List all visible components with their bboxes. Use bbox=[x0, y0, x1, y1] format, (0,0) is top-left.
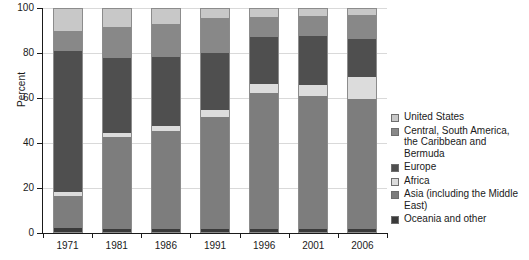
x-axis-tick-label: 1981 bbox=[92, 240, 142, 251]
x-axis-tick-mark bbox=[92, 233, 93, 238]
bar-2001 bbox=[298, 8, 328, 233]
y-axis-tick: 100 bbox=[0, 8, 42, 9]
y-axis-tick: 40 bbox=[0, 143, 42, 144]
bar-segment bbox=[250, 9, 278, 17]
bar-segment bbox=[103, 9, 131, 27]
legend-item: Oceania and other bbox=[391, 213, 529, 225]
bar-1971 bbox=[53, 8, 83, 233]
x-axis-line bbox=[42, 233, 387, 234]
x-axis-tick-mark bbox=[141, 233, 142, 238]
x-axis-tick-mark bbox=[289, 233, 290, 238]
y-axis-tick: 0 bbox=[0, 233, 42, 234]
legend-swatch-icon bbox=[391, 216, 399, 224]
bar-segment bbox=[250, 17, 278, 37]
bar-segment bbox=[152, 57, 180, 126]
x-axis-tick-mark bbox=[190, 233, 191, 238]
legend-item: Africa bbox=[391, 175, 529, 187]
y-axis-tick-label: 80 bbox=[8, 48, 34, 58]
bar-segment bbox=[348, 99, 376, 228]
bar-segment bbox=[299, 9, 327, 16]
bar-1981 bbox=[102, 8, 132, 233]
bar-segment bbox=[201, 53, 229, 111]
y-axis-tick: 20 bbox=[0, 188, 42, 189]
y-axis-tick-label: 0 bbox=[8, 228, 34, 238]
x-axis-tick-mark bbox=[43, 233, 44, 238]
bar-segment bbox=[152, 24, 180, 57]
y-axis-tick-label: 40 bbox=[8, 138, 34, 148]
bar-segment bbox=[299, 229, 327, 232]
x-axis-tick-label: 1986 bbox=[141, 240, 191, 251]
stacked-bar-chart: Percent 020406080100 1971198119861991199… bbox=[0, 0, 529, 260]
legend-swatch-icon bbox=[391, 191, 399, 199]
legend-item: Central, South America, the Caribbean an… bbox=[391, 125, 529, 160]
legend-item-label: Europe bbox=[404, 161, 436, 173]
y-axis-title: Percent bbox=[16, 45, 27, 135]
y-axis-tick: 60 bbox=[0, 98, 42, 99]
bar-segment bbox=[348, 77, 376, 99]
x-axis-tick-label: 2001 bbox=[288, 240, 338, 251]
legend-item-label: Oceania and other bbox=[404, 213, 486, 225]
legend-swatch-icon bbox=[391, 128, 399, 136]
bar-segment bbox=[299, 96, 327, 229]
y-axis-tick-label: 60 bbox=[8, 93, 34, 103]
bar-segment bbox=[152, 229, 180, 232]
bar-segment bbox=[54, 196, 82, 227]
legend-item: Asia (including the Middle East) bbox=[391, 188, 529, 211]
bar-segment bbox=[201, 18, 229, 53]
legend-swatch-icon bbox=[391, 114, 399, 122]
bar-segment bbox=[54, 51, 82, 191]
x-axis-tick-mark bbox=[240, 233, 241, 238]
legend-swatch-icon bbox=[391, 178, 399, 186]
bar-segment bbox=[103, 229, 131, 232]
bar-segment bbox=[201, 117, 229, 229]
bar-segment bbox=[348, 39, 376, 77]
bar-segment bbox=[54, 31, 82, 51]
legend-item: United States bbox=[391, 111, 529, 123]
bar-segment bbox=[152, 9, 180, 23]
bar-segment bbox=[348, 15, 376, 40]
bar-segment bbox=[103, 27, 131, 58]
legend-item: Europe bbox=[391, 161, 529, 173]
bar-segment bbox=[54, 9, 82, 31]
plot-area bbox=[43, 8, 387, 233]
legend-item-label: United States bbox=[404, 111, 464, 123]
bar-1986 bbox=[151, 8, 181, 233]
legend-swatch-icon bbox=[391, 164, 399, 172]
bar-segment bbox=[54, 228, 82, 232]
y-axis-tick-label: 20 bbox=[8, 183, 34, 193]
legend-item-label: Asia (including the Middle East) bbox=[404, 188, 518, 211]
bar-segment bbox=[299, 85, 327, 96]
bar-segment bbox=[201, 229, 229, 232]
bar-1991 bbox=[200, 8, 230, 233]
bar-segment bbox=[152, 131, 180, 229]
legend-item-label: Africa bbox=[404, 175, 430, 187]
bar-segment bbox=[201, 9, 229, 18]
x-axis-tick-label: 1971 bbox=[43, 240, 93, 251]
bar-segment bbox=[103, 58, 131, 133]
x-axis-tick-label: 1996 bbox=[239, 240, 289, 251]
x-axis-tick-mark bbox=[387, 233, 388, 238]
x-axis-tick-mark bbox=[338, 233, 339, 238]
bar-segment bbox=[250, 229, 278, 232]
bar-segment bbox=[250, 84, 278, 93]
bar-segment bbox=[348, 229, 376, 232]
legend-item-label: Central, South America, the Caribbean an… bbox=[404, 125, 510, 160]
bar-1996 bbox=[249, 8, 279, 233]
x-axis-tick-label: 1991 bbox=[190, 240, 240, 251]
bar-2006 bbox=[347, 8, 377, 233]
bar-segment bbox=[299, 36, 327, 85]
bar-segment bbox=[250, 93, 278, 229]
y-axis-tick-label: 100 bbox=[8, 3, 34, 13]
y-axis-tick: 80 bbox=[0, 53, 42, 54]
bar-segment bbox=[201, 110, 229, 117]
bar-segment bbox=[103, 137, 131, 228]
x-axis-tick-label: 2006 bbox=[337, 240, 387, 251]
bar-segment bbox=[250, 37, 278, 84]
bar-segment bbox=[299, 16, 327, 36]
chart-legend: United StatesCentral, South America, the… bbox=[391, 111, 529, 227]
